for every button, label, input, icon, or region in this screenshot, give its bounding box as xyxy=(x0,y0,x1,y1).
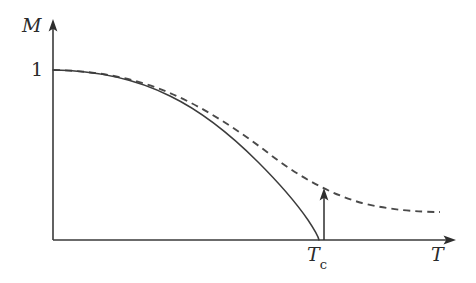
magnetization-vs-temperature-figure: M 1 Tc T xyxy=(0,0,476,283)
dashed-extrapolation-curve xyxy=(53,70,440,212)
tc-subscript-letter: c xyxy=(320,257,327,272)
solid-order-parameter-curve xyxy=(53,70,319,240)
tc-base-letter: T xyxy=(307,243,320,265)
x-axis-label: T xyxy=(431,245,444,264)
y-axis-label: M xyxy=(22,16,41,35)
plot-canvas xyxy=(0,0,476,283)
y-axis-tick-label-1: 1 xyxy=(31,60,43,79)
x-axis-tick-label-tc: Tc xyxy=(307,245,327,268)
